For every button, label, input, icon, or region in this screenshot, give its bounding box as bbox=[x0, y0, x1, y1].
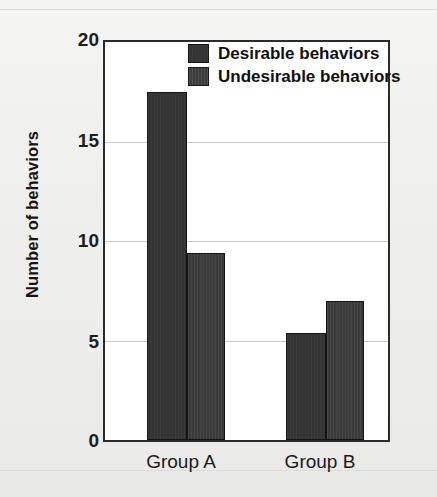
legend-label-undesirable: Undesirable behaviors bbox=[218, 68, 400, 85]
legend-item-undesirable: Undesirable behaviors bbox=[188, 67, 400, 86]
bar-group-b-desirable bbox=[286, 333, 326, 440]
y-tick-label-0: 0 bbox=[59, 431, 99, 450]
legend-swatch-desirable-icon bbox=[188, 44, 209, 63]
y-tick-label-15: 15 bbox=[59, 131, 99, 150]
y-tick-label-10: 10 bbox=[59, 231, 99, 250]
y-tick-label-5: 5 bbox=[59, 332, 99, 351]
legend-label-desirable: Desirable behaviors bbox=[218, 45, 380, 62]
legend-item-desirable: Desirable behaviors bbox=[188, 44, 400, 63]
legend: Desirable behaviors Undesirable behavior… bbox=[188, 44, 400, 86]
x-tick-label-group-b: Group B bbox=[260, 452, 380, 471]
legend-swatch-undesirable-icon bbox=[188, 67, 209, 86]
figure-root: Number of behaviors 20 15 10 5 0 Desirab… bbox=[0, 0, 437, 497]
plot-area bbox=[103, 40, 390, 442]
bar-group-a-desirable bbox=[147, 92, 187, 440]
y-tick-label-20: 20 bbox=[59, 30, 99, 49]
x-tick-label-group-a: Group A bbox=[121, 452, 241, 471]
bar-group-a-undesirable bbox=[187, 253, 225, 440]
bar-group-b-undesirable bbox=[326, 301, 364, 440]
y-axis-title: Number of behaviors bbox=[23, 115, 42, 315]
y-axis-tick-labels: 20 15 10 5 0 bbox=[54, 0, 99, 497]
